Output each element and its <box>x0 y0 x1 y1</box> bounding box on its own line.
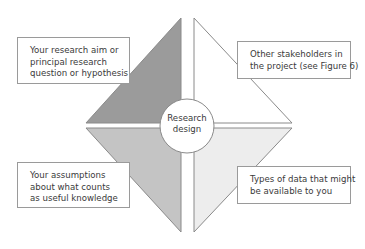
box-line: Other stakeholders in <box>250 49 340 61</box>
center-label-line: Research <box>161 113 213 124</box>
box-line: Your research aim or <box>30 45 119 57</box>
box-line: about what counts <box>30 182 119 194</box>
box-types-of-data: Types of data that might be available to… <box>237 166 351 204</box>
center-label-line: design <box>161 124 213 135</box>
center-label-research-design: Research design <box>161 113 213 135</box>
box-line: principal research <box>30 57 119 69</box>
box-line: the project (see Figure 6) <box>250 61 340 73</box>
box-line: question or hypothesis <box>30 68 119 80</box>
box-line: Your assumptions <box>30 170 119 182</box>
box-assumptions: Your assumptions about what counts as us… <box>17 162 130 208</box>
box-line: Types of data that might <box>250 174 340 186</box>
box-other-stakeholders: Other stakeholders in the project (see F… <box>237 41 351 79</box>
box-line: be available to you <box>250 186 340 198</box>
box-research-aim: Your research aim or principal research … <box>17 37 130 84</box>
box-line: as useful knowledge <box>30 193 119 205</box>
